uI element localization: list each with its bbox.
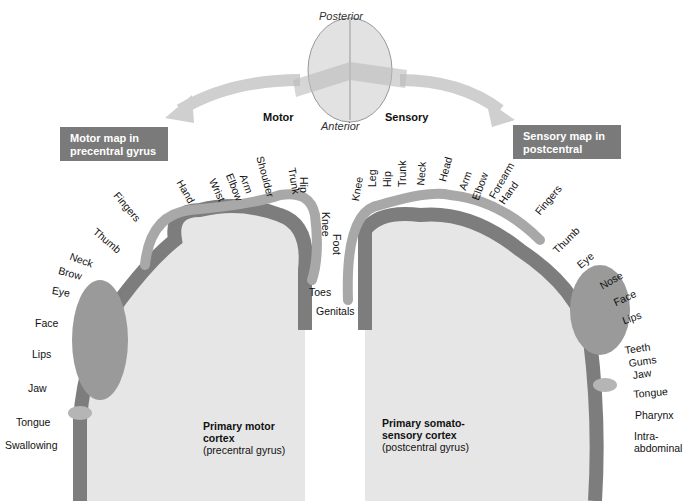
diagram-artwork <box>0 0 699 501</box>
motor-label-face: Face <box>35 318 58 329</box>
sensory-label-jaw: Jaw <box>632 367 652 380</box>
motor-cortex-caption: Primary motor cortex (precentral gyrus) <box>203 420 285 456</box>
motor-map-line1: Motor map in <box>70 132 158 145</box>
sensory-cortex-caption: Primary somato- sensory cortex (postcent… <box>382 417 469 453</box>
motor-label-eye: Eye <box>51 285 71 298</box>
posterior-label: Posterior <box>319 10 363 22</box>
sensory-cortex-subtitle: (postcentral gyrus) <box>382 441 469 453</box>
sensory-arrow-icon <box>400 80 500 110</box>
sensory-label-abdominal: abdominal <box>634 443 682 454</box>
motor-arrow-icon <box>180 80 300 110</box>
motor-label-swallowing: Swallowing <box>5 440 58 451</box>
motor-cortex-title-1: Primary motor <box>203 420 285 432</box>
motor-label-knee: Knee <box>321 212 332 237</box>
motor-label-lips: Lips <box>32 349 51 360</box>
sensory-map-line2: postcentral gyrus <box>523 143 611 169</box>
motor-cortex-title-2: cortex <box>203 432 285 444</box>
sensory-heading: Sensory <box>385 111 428 123</box>
sensory-label-pharynx: Pharynx <box>635 410 674 421</box>
sensory-label-leg: Leg <box>367 169 378 187</box>
sensory-label-hip: Hip <box>382 171 393 187</box>
sensory-label-intra: Intra- <box>634 431 659 442</box>
sensory-label-neck: Neck <box>415 161 428 186</box>
motor-map-line2: precentral gyrus <box>70 145 158 158</box>
sensory-cortex-title-1: Primary somato- <box>382 417 469 429</box>
motor-label-jaw: Jaw <box>28 383 47 394</box>
sensory-label-trunk: Trunk <box>397 161 408 187</box>
sensory-label-genitals: Genitals <box>316 306 355 317</box>
sensory-map-box: Sensory map in postcentral gyrus <box>513 125 621 159</box>
sensory-cortex-slab <box>365 214 597 501</box>
motor-label-toes: Toes <box>309 287 331 298</box>
anterior-label: Anterior <box>321 120 360 132</box>
motor-heading: Motor <box>263 111 294 123</box>
sensory-map-line1: Sensory map in <box>523 130 611 143</box>
motor-map-box: Motor map in precentral gyrus <box>60 127 168 161</box>
motor-cortex-subtitle: (precentral gyrus) <box>203 444 285 456</box>
motor-label-tongue: Tongue <box>16 417 50 428</box>
motor-label-foot: Foot <box>332 234 343 255</box>
sensory-cortex-title-2: sensory cortex <box>382 429 469 441</box>
